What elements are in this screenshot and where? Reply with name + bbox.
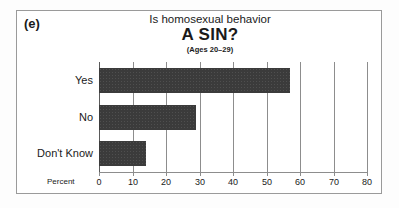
bar-yes xyxy=(99,68,290,93)
figure-panel: (e) Is homosexual behavior A SIN? (Ages … xyxy=(0,0,399,208)
x-tick-40 xyxy=(233,172,234,176)
chart-title-block: Is homosexual behavior A SIN? (Ages 20–2… xyxy=(95,13,325,55)
x-tick-label-10: 10 xyxy=(121,177,145,187)
x-tick-label-50: 50 xyxy=(255,177,279,187)
bar-no xyxy=(99,105,196,130)
x-tick-label-60: 60 xyxy=(288,177,312,187)
bar-don-t-know xyxy=(99,141,146,166)
x-tick-70 xyxy=(334,172,335,176)
bar-row xyxy=(99,68,367,93)
x-tick-0 xyxy=(99,172,100,176)
x-tick-30 xyxy=(200,172,201,176)
chart-subtitle: (Ages 20–29) xyxy=(95,45,325,55)
category-label-yes: Yes xyxy=(75,74,93,86)
x-tick-label-70: 70 xyxy=(322,177,346,187)
panel-label: (e) xyxy=(24,16,40,31)
x-tick-label-80: 80 xyxy=(355,177,379,187)
x-tick-80 xyxy=(367,172,368,176)
x-tick-label-0: 0 xyxy=(87,177,111,187)
bar-row xyxy=(99,105,367,130)
x-tick-20 xyxy=(166,172,167,176)
bar-row xyxy=(99,141,367,166)
chart-title-line2: A SIN? xyxy=(95,26,325,44)
category-label-no: No xyxy=(79,111,93,123)
x-tick-50 xyxy=(267,172,268,176)
x-tick-60 xyxy=(300,172,301,176)
x-tick-10 xyxy=(133,172,134,176)
x-tick-label-30: 30 xyxy=(188,177,212,187)
category-axis-labels: YesNoDon't Know xyxy=(0,62,93,172)
category-label-don-t-know: Don't Know xyxy=(37,147,93,159)
plot-area xyxy=(99,62,367,172)
x-tick-label-20: 20 xyxy=(154,177,178,187)
x-axis-label: Percent xyxy=(47,177,75,186)
x-tick-label-40: 40 xyxy=(221,177,245,187)
gridline-80 xyxy=(367,62,368,172)
